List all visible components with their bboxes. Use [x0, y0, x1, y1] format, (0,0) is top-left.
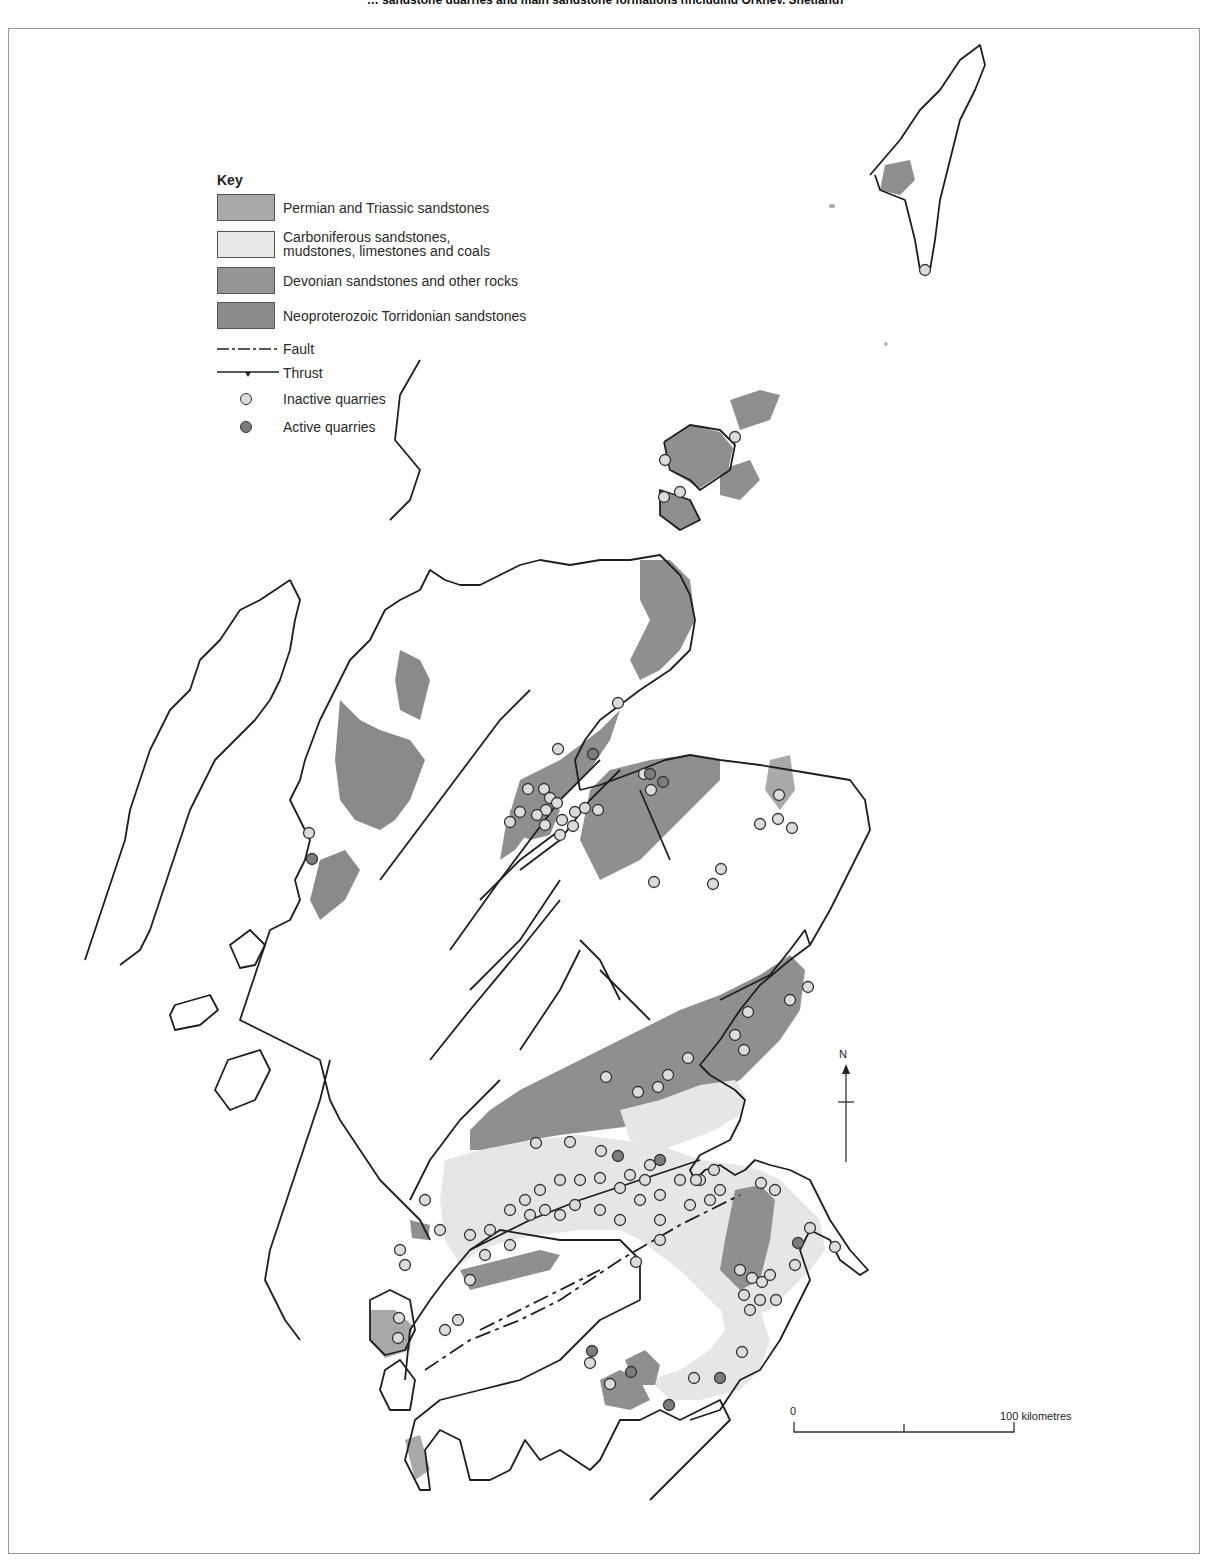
- inactive-quarry-marker: [655, 1235, 666, 1246]
- inactive-quarry-marker: [685, 1200, 696, 1211]
- inactive-quarry-marker: [689, 1373, 700, 1384]
- small-islets: [829, 204, 888, 346]
- inactive-quarry-marker: [505, 1240, 516, 1251]
- inactive-quarry-marker: [739, 1045, 750, 1056]
- inactive-quarry-marker: [774, 790, 785, 801]
- torridonian-area: [395, 650, 430, 720]
- permian_triassic-area: [370, 1310, 412, 1358]
- inactive-quarry-marker: [540, 820, 551, 831]
- inactive-quarry-marker: [743, 1007, 754, 1018]
- legend-label: Devonian sandstones and other rocks: [283, 274, 518, 288]
- active-quarry-marker: [664, 1400, 675, 1411]
- inactive-quarry-marker: [747, 1273, 758, 1284]
- inactive-quarry-marker: [716, 864, 727, 875]
- devonian-area: [460, 1250, 560, 1290]
- inactive-quarry-marker: [535, 1185, 546, 1196]
- coastline: [85, 580, 290, 960]
- inactive-quarry-marker: [505, 817, 516, 828]
- inactive-quarry-marker: [765, 1270, 776, 1281]
- fault-line: [430, 900, 560, 1060]
- inactive-quarry-marker: [400, 1260, 411, 1271]
- inactive-quarry-marker: [565, 1137, 576, 1148]
- legend-item-permian-triassic: Permian and Triassic sandstones: [217, 190, 577, 225]
- active-quarry-marker: [587, 1346, 598, 1357]
- inactive-quarry-marker: [649, 877, 660, 888]
- inactive-quarry-marker: [655, 1215, 666, 1226]
- inactive-quarry-marker: [770, 1185, 781, 1196]
- legend-item-torridonian: Neoproterozoic Torridonian sandstones: [217, 298, 577, 333]
- inactive-quarry-marker: [435, 1225, 446, 1236]
- inactive-quarry-marker: [730, 432, 741, 443]
- active-quarry-marker: [793, 1238, 804, 1249]
- inactive-quarry-marker: [653, 1082, 664, 1093]
- inactive-quarry-marker: [830, 1242, 841, 1253]
- inactive-quarry-marker: [523, 784, 534, 795]
- inactive-quarry-marker: [790, 1260, 801, 1271]
- thrust-line-icon: [217, 368, 279, 378]
- coastline: [170, 995, 218, 1030]
- active-quarry-marker: [655, 1155, 666, 1166]
- permian-triassic-swatch: [217, 194, 275, 221]
- inactive-quarry-marker: [655, 1190, 666, 1201]
- inactive-quarry-marker: [730, 1030, 741, 1041]
- inactive-quarry-marker: [595, 1173, 606, 1184]
- inactive-quarry-marker: [480, 1250, 491, 1261]
- inactive-quarry-marker: [739, 1290, 750, 1301]
- inactive-quarry-marker: [601, 1072, 612, 1083]
- legend-title: Key: [217, 172, 577, 188]
- legend-label: Inactive quarries: [283, 392, 386, 406]
- inactive-quarry-marker: [691, 1175, 702, 1186]
- inactive-quarry-marker: [465, 1275, 476, 1286]
- inactive-quarry-marker: [532, 810, 543, 821]
- inactive-quarry-marker: [557, 815, 568, 826]
- legend-item-carboniferous: Carboniferous sandstones, mudstones, lim…: [217, 225, 577, 263]
- inactive-quarry-marker: [745, 1305, 756, 1316]
- inactive-quarry-marker: [705, 1195, 716, 1206]
- legend-label: Active quarries: [283, 420, 376, 434]
- inactive-quarry-marker: [453, 1315, 464, 1326]
- legend-label: Carboniferous sandstones, mudstones, lim…: [283, 230, 490, 258]
- inactive-quarry-marker: [525, 1210, 536, 1221]
- active-quarry-icon: [240, 421, 252, 433]
- inactive-quarry-marker: [640, 1175, 651, 1186]
- active-quarry-marker: [613, 1151, 624, 1162]
- fault-line: [520, 950, 580, 1050]
- inactive-quarry-marker: [570, 1200, 581, 1211]
- inactive-quarry-marker: [552, 798, 563, 809]
- scale-bar-line: [790, 1405, 1030, 1435]
- inactive-quarry-marker: [394, 1313, 405, 1324]
- fault-line-icon: [217, 344, 279, 354]
- permian_triassic-area: [765, 755, 795, 810]
- active-quarry-marker: [645, 769, 656, 780]
- torridonian-swatch: [217, 302, 275, 329]
- inactive-quarry-marker: [555, 830, 566, 841]
- inactive-quarry-marker: [785, 995, 796, 1006]
- inactive-quarry-marker: [393, 1333, 404, 1344]
- coastline: [120, 580, 300, 965]
- carboniferous-swatch: [217, 231, 275, 258]
- inactive-quarry-marker: [660, 455, 671, 466]
- legend-label: Neoproterozoic Torridonian sandstones: [283, 309, 526, 323]
- inactive-quarry-marker: [631, 1257, 642, 1268]
- north-arrow-icon: [834, 1048, 858, 1164]
- legend-item-thrust: Thrust: [217, 361, 577, 385]
- inactive-quarry-marker: [645, 1160, 656, 1171]
- legend-label: Permian and Triassic sandstones: [283, 201, 489, 215]
- inactive-quarry-marker: [646, 785, 657, 796]
- coastline: [380, 1360, 415, 1410]
- devonian-area: [410, 1220, 430, 1240]
- inactive-quarry-marker: [675, 487, 686, 498]
- inactive-quarry-marker: [683, 1053, 694, 1064]
- inactive-quarry-marker: [515, 807, 526, 818]
- inactive-quarry-marker: [735, 1265, 746, 1276]
- inactive-quarry-marker: [755, 1295, 766, 1306]
- inactive-quarry-marker: [773, 814, 784, 825]
- active-quarry-marker: [658, 777, 669, 788]
- inactive-quarry-marker: [505, 1205, 516, 1216]
- inactive-quarry-marker: [737, 1347, 748, 1358]
- inactive-quarry-marker: [595, 1205, 606, 1216]
- devonian-swatch: [217, 267, 275, 294]
- inactive-quarry-marker: [787, 823, 798, 834]
- inactive-quarry-marker: [568, 821, 579, 832]
- inactive-quarry-marker: [485, 1225, 496, 1236]
